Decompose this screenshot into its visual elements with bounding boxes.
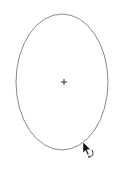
drawing-canvas[interactable] bbox=[0, 0, 121, 172]
rotate-cursor-icon bbox=[83, 142, 93, 158]
crosshair-icon bbox=[61, 79, 67, 85]
